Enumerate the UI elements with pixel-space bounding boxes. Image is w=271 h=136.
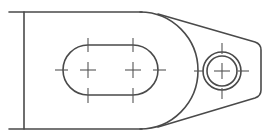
technical-drawing: [0, 0, 271, 136]
slot: [63, 45, 158, 95]
large-end-arc: [140, 12, 198, 129]
